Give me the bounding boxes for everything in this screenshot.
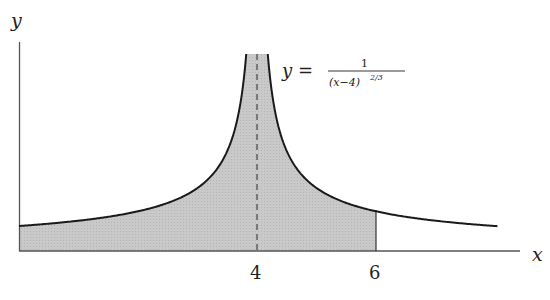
y-axis-label: y <box>10 9 22 31</box>
tick-label-4: 4 <box>250 262 261 283</box>
equation-denominator: (x−4) <box>329 76 360 89</box>
x-axis-label: x <box>532 243 543 265</box>
graph-canvas: y x 4 6 y = 1 (x−4) 2/3 <box>0 0 550 300</box>
equation-exponent: 2/3 <box>369 73 383 82</box>
tick-label-6: 6 <box>369 262 380 283</box>
equation-label: y = 1 (x−4) 2/3 <box>281 57 405 89</box>
equation-lhs: y = <box>281 60 313 81</box>
equation-numerator: 1 <box>361 57 368 70</box>
